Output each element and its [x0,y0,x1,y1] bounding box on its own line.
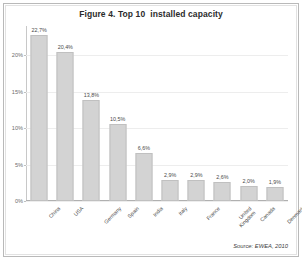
bar[interactable] [135,153,152,201]
bar[interactable] [240,186,257,201]
bar[interactable] [214,182,231,201]
bar-slot: 2,0% [236,26,262,201]
bar-value-label: 6,6% [138,145,150,151]
bar[interactable] [266,187,283,201]
bar-value-label: 10,5% [110,116,125,122]
bar[interactable] [57,52,74,201]
bars-group: 22,7%20,4%13,8%10,5%6,6%2,9%2,9%2,6%2,0%… [26,26,288,201]
plot-area: 0%5%10%15%20% 22,7%20,4%13,8%10,5%6,6%2,… [26,26,288,201]
bar[interactable] [83,100,100,201]
bar-slot: 1,9% [262,26,288,201]
y-axis-tick-label: 20% [12,52,23,58]
y-axis-tick-label: 15% [12,89,23,95]
bar-slot: 2,6% [209,26,235,201]
y-axis-tick-label: 5% [15,162,23,168]
bar-slot: 2,9% [157,26,183,201]
bar-value-label: 2,9% [164,172,176,178]
chart-title: Figure 4. Top 10 installed capacity [0,9,302,19]
source-note: Source: EWEA, 2010 [233,243,288,249]
bar-value-label: 20,4% [58,44,73,50]
bar-slot: 10,5% [105,26,131,201]
bar-slot: 22,7% [26,26,52,201]
bar-slot: 2,9% [183,26,209,201]
bar-value-label: 2,0% [243,178,255,184]
bar-slot: 20,4% [52,26,78,201]
bar-value-label: 22,7% [31,27,46,33]
bar[interactable] [188,180,205,201]
bar-value-label: 2,6% [216,174,228,180]
bar[interactable] [31,35,48,201]
bar-slot: 13,8% [78,26,104,201]
y-axis-tick-label: 10% [12,125,23,131]
bar[interactable] [162,180,179,201]
gridline [26,201,288,202]
figure-container: Figure 4. Top 10 installed capacity 0%5%… [0,0,302,263]
bar-value-label: 2,9% [190,172,202,178]
y-axis-tick-mark [24,201,26,202]
bar-value-label: 1,9% [269,179,281,185]
bar-value-label: 13,8% [84,92,99,98]
y-axis-tick-label: 0% [15,198,23,204]
bar[interactable] [109,124,126,201]
bar-slot: 6,6% [131,26,157,201]
